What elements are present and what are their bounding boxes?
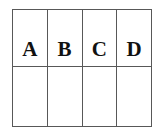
- grid-cell-bottom-3[interactable]: [83, 67, 118, 126]
- cell-label-c: C: [92, 39, 107, 66]
- grid-cell-b[interactable]: B: [48, 10, 83, 66]
- grid-cell-a[interactable]: A: [13, 10, 48, 66]
- cell-label-bottom-4: [117, 67, 151, 126]
- grid-table: A B C D: [12, 9, 152, 127]
- grid-row-bottom: [13, 67, 151, 126]
- cell-label-bottom-2: [48, 67, 82, 126]
- cell-label-b: B: [58, 39, 72, 66]
- cell-label-bottom-3: [83, 67, 117, 126]
- cell-label-bottom-1: [13, 67, 47, 126]
- figure-root: A B C D: [0, 0, 162, 134]
- grid-row-top: A B C D: [13, 10, 151, 67]
- cell-label-a: A: [22, 39, 37, 66]
- grid-cell-bottom-1[interactable]: [13, 67, 48, 126]
- grid-cell-bottom-2[interactable]: [48, 67, 83, 126]
- grid-cell-bottom-4[interactable]: [117, 67, 151, 126]
- grid-cell-d[interactable]: D: [117, 10, 151, 66]
- cell-label-d: D: [127, 39, 142, 66]
- grid-cell-c[interactable]: C: [83, 10, 118, 66]
